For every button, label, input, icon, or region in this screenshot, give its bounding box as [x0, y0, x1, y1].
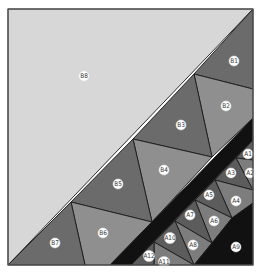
piece-label-a5: A5 — [204, 190, 214, 200]
label-text: A12 — [143, 252, 155, 260]
label-text: A8 — [189, 241, 197, 249]
piece-label-a10: A10 — [164, 232, 176, 243]
label-text: B2 — [222, 102, 230, 110]
piece-label-a12: A12 — [143, 250, 155, 261]
label-text: B7 — [51, 239, 59, 247]
label-text: A6 — [210, 217, 218, 225]
label-text: B5 — [114, 180, 122, 188]
piece-label-b1: B1 — [229, 56, 239, 66]
paper-piecing-diagram: B8B1B2B3B4B5B6B7A1A2A3A4A5A6A7A8A10A11A1… — [0, 0, 261, 275]
piece-label-a8: A8 — [188, 240, 198, 250]
label-text: B6 — [99, 229, 107, 237]
piece-label-b8: B8 — [79, 71, 89, 81]
piece-label-a6: A6 — [209, 216, 219, 226]
label-text: A4 — [232, 197, 240, 205]
piece-label-b2: B2 — [221, 101, 231, 111]
label-text: A1 — [244, 150, 252, 158]
piece-label-a9: A9 — [231, 242, 241, 252]
label-text: B8 — [80, 72, 88, 80]
piece-label-b5: B5 — [113, 179, 123, 189]
piece-label-b6: B6 — [98, 228, 108, 238]
piece-label-a1: A1 — [243, 149, 253, 159]
label-text: B1 — [230, 57, 238, 65]
label-text: A7 — [186, 211, 194, 219]
piece-label-b7: B7 — [50, 238, 60, 248]
label-text: A10 — [164, 234, 176, 242]
piece-label-b4: B4 — [159, 165, 169, 175]
label-text: A9 — [232, 243, 240, 251]
label-text: A3 — [227, 169, 235, 177]
piece-label-a4: A4 — [231, 196, 241, 206]
pieces-layer — [8, 9, 253, 265]
piece-label-a11: A11 — [158, 256, 170, 267]
piece-label-a3: A3 — [226, 168, 236, 178]
piece-label-a7: A7 — [185, 210, 195, 220]
label-text: B3 — [177, 121, 185, 129]
label-text: B4 — [160, 166, 168, 174]
label-text: A5 — [205, 191, 213, 199]
piece-label-b3: B3 — [176, 120, 186, 130]
